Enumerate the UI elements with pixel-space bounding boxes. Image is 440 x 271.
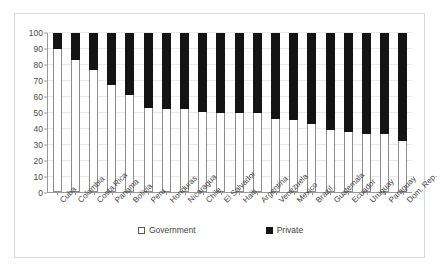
bar-segment-private[interactable]: [289, 33, 298, 120]
bar-slot[interactable]: [303, 33, 321, 192]
stacked-bar[interactable]: [144, 33, 153, 192]
y-axis-tick-label: 50: [34, 109, 43, 118]
y-axis-tick-label: 30: [34, 141, 43, 150]
bar-segment-private[interactable]: [216, 33, 225, 113]
bar-segment-private[interactable]: [326, 33, 335, 130]
bar-segment-government[interactable]: [144, 108, 153, 192]
stacked-bar[interactable]: [235, 33, 244, 192]
y-axis-tick-mark: [44, 33, 47, 34]
bar-segment-private[interactable]: [71, 33, 80, 60]
x-axis-tick-mark: [57, 192, 58, 195]
y-axis-tick-mark: [44, 129, 47, 130]
y-axis-tick-mark: [44, 113, 47, 114]
bar-slot[interactable]: [266, 33, 284, 192]
bar-slot[interactable]: [248, 33, 266, 192]
bar-slot[interactable]: [285, 33, 303, 192]
y-axis-tick-label: 70: [34, 77, 43, 86]
legend-item-private: Private: [266, 226, 303, 235]
bar-segment-private[interactable]: [271, 33, 280, 119]
legend-swatch-private-icon: [266, 227, 273, 234]
bar-segment-private[interactable]: [253, 33, 262, 113]
bar-segment-private[interactable]: [125, 33, 134, 95]
chart-legend: Government Private: [15, 226, 426, 235]
bar-segment-government[interactable]: [89, 70, 98, 192]
bar-segment-private[interactable]: [198, 33, 207, 112]
bar-segment-government[interactable]: [216, 113, 225, 193]
y-axis-tick-label: 100: [29, 29, 43, 38]
bar-segment-private[interactable]: [53, 33, 62, 49]
bar-slot[interactable]: [212, 33, 230, 192]
plot-inner: 0102030405060708090100: [47, 33, 412, 193]
stacked-bar[interactable]: [307, 33, 316, 192]
y-axis-tick-label: 20: [34, 157, 43, 166]
y-axis-tick-label: 40: [34, 125, 43, 134]
y-axis-tick-mark: [44, 65, 47, 66]
stacked-bar[interactable]: [271, 33, 280, 192]
bar-slot[interactable]: [48, 33, 66, 192]
stacked-bar[interactable]: [180, 33, 189, 192]
bar-slot[interactable]: [121, 33, 139, 192]
y-axis-tick-label: 0: [38, 189, 43, 198]
legend-item-government: Government: [138, 226, 196, 235]
bar-segment-government[interactable]: [162, 109, 171, 192]
bar-slot[interactable]: [84, 33, 102, 192]
bar-segment-private[interactable]: [307, 33, 316, 124]
bar-segment-private[interactable]: [89, 33, 98, 70]
legend-swatch-government-icon: [138, 227, 145, 234]
stacked-bar[interactable]: [71, 33, 80, 192]
bar-segment-government[interactable]: [107, 85, 116, 192]
chart-container: 0102030405060708090100 CubaColombiaCosta…: [14, 13, 425, 258]
bar-segment-government[interactable]: [53, 49, 62, 192]
bar-segment-private[interactable]: [398, 33, 407, 141]
bar-segment-government[interactable]: [326, 130, 335, 192]
bar-segment-government[interactable]: [253, 113, 262, 192]
bar-slot[interactable]: [175, 33, 193, 192]
bar-segment-private[interactable]: [107, 33, 116, 85]
bar-segment-government[interactable]: [71, 60, 80, 192]
bar-slot[interactable]: [339, 33, 357, 192]
y-axis-tick-label: 60: [34, 93, 43, 102]
bar-segment-private[interactable]: [180, 33, 189, 109]
bar-slot[interactable]: [230, 33, 248, 192]
bar-segment-private[interactable]: [362, 33, 371, 134]
stacked-bar[interactable]: [362, 33, 371, 192]
bar-slot[interactable]: [394, 33, 412, 192]
stacked-bar[interactable]: [398, 33, 407, 192]
bar-segment-private[interactable]: [162, 33, 171, 109]
stacked-bar[interactable]: [53, 33, 62, 192]
legend-label-private: Private: [277, 226, 303, 235]
bar-slot[interactable]: [376, 33, 394, 192]
bar-slot[interactable]: [321, 33, 339, 192]
bar-segment-private[interactable]: [144, 33, 153, 108]
bar-slot[interactable]: [66, 33, 84, 192]
bar-segment-private[interactable]: [235, 33, 244, 113]
y-axis-tick-mark: [44, 145, 47, 146]
stacked-bar[interactable]: [289, 33, 298, 192]
y-axis-tick-mark: [44, 81, 47, 82]
y-axis-tick-mark: [44, 97, 47, 98]
y-axis-tick-mark: [44, 193, 47, 194]
bar-segment-private[interactable]: [344, 33, 353, 132]
bar-slot[interactable]: [157, 33, 175, 192]
stacked-bar[interactable]: [380, 33, 389, 192]
stacked-bar[interactable]: [253, 33, 262, 192]
stacked-bar[interactable]: [216, 33, 225, 192]
y-axis-tick-label: 80: [34, 61, 43, 70]
bar-slot[interactable]: [103, 33, 121, 192]
y-axis-tick-mark: [44, 49, 47, 50]
stacked-bar[interactable]: [326, 33, 335, 192]
stacked-bar[interactable]: [125, 33, 134, 192]
bar-slot[interactable]: [139, 33, 157, 192]
stacked-bar[interactable]: [89, 33, 98, 192]
y-axis-tick-mark: [44, 161, 47, 162]
bar-slot[interactable]: [194, 33, 212, 192]
y-axis-tick-label: 10: [34, 173, 43, 182]
y-axis-tick-label: 90: [34, 45, 43, 54]
stacked-bar[interactable]: [344, 33, 353, 192]
stacked-bar[interactable]: [107, 33, 116, 192]
stacked-bar[interactable]: [198, 33, 207, 192]
y-axis-tick-mark: [44, 177, 47, 178]
stacked-bar[interactable]: [162, 33, 171, 192]
bar-segment-private[interactable]: [380, 33, 389, 134]
bar-slot[interactable]: [357, 33, 375, 192]
